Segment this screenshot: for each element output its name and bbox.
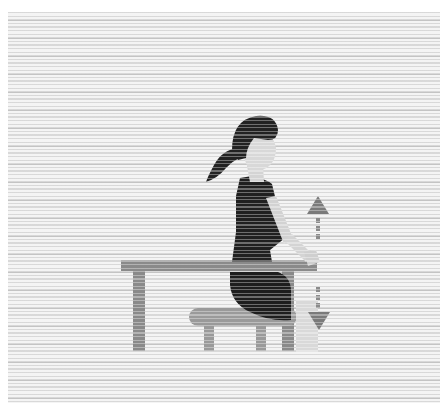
exercise-illustration — [0, 0, 448, 411]
stool-leg-left — [204, 326, 214, 351]
arrow-dash — [316, 234, 320, 239]
arrow-dash — [316, 218, 320, 223]
stool-leg-right — [256, 326, 266, 351]
ponytail — [206, 148, 240, 182]
arrow-dash — [316, 287, 320, 292]
arrow-dash — [316, 226, 320, 231]
arrow-dash — [316, 295, 320, 300]
arrow-dash — [316, 303, 320, 308]
table-leg-left — [133, 271, 145, 351]
shin — [296, 300, 318, 352]
table-top — [121, 260, 317, 271]
arrow-up-icon — [307, 196, 329, 214]
